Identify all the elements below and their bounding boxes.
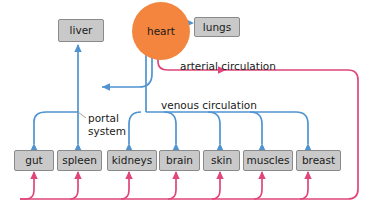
arrowhead-brain-artery [172, 171, 179, 179]
node-skin[interactable]: skin [203, 150, 240, 171]
arrowhead-into-liver [74, 44, 81, 52]
node-lungs-label: lungs [203, 22, 231, 33]
label-venous-circulation: venous circulation [161, 99, 257, 111]
edge-skin-to-venous [208, 112, 220, 144]
node-muscles-label: muscles [247, 155, 290, 166]
arrowhead-skin-artery [216, 171, 223, 179]
node-spleen-label: spleen [62, 155, 97, 166]
arrowhead-liver-to-heart [102, 83, 110, 90]
node-breast[interactable]: breast [296, 150, 341, 171]
node-muscles[interactable]: muscles [243, 150, 293, 171]
edge-gut-to-liver [34, 112, 78, 144]
node-liver[interactable]: liver [58, 19, 104, 42]
node-kidneys-label: kidneys [112, 155, 152, 166]
node-gut[interactable]: gut [14, 150, 54, 171]
node-gut-label: gut [25, 155, 42, 166]
node-spleen[interactable]: spleen [57, 150, 102, 171]
arrowhead-muscles-artery [258, 171, 265, 179]
node-brain-label: brain [166, 155, 193, 166]
arrowhead-breast-artery [304, 171, 311, 179]
node-skin-label: skin [211, 155, 232, 166]
node-lungs[interactable]: lungs [194, 17, 240, 37]
label-portal-system-line2: system [88, 125, 126, 137]
label-arterial-circulation: arterial circulation [180, 60, 276, 72]
edge-kidneys-to-venous [129, 112, 141, 144]
arrowhead-spleen-artery [74, 171, 81, 179]
circulatory-system-diagram: heart lungs liver gut spleen kidneys bra… [0, 0, 374, 210]
edge-brain-to-venous [164, 112, 176, 144]
node-liver-label: liver [70, 25, 93, 36]
arrowhead-kidneys-artery [125, 171, 132, 179]
edge-muscles-to-venous [250, 112, 262, 144]
node-breast-label: breast [302, 155, 335, 166]
node-heart-label: heart [147, 25, 175, 37]
edge-breast-to-venous [290, 112, 308, 144]
node-heart[interactable]: heart [132, 2, 190, 60]
label-portal-system-line1: portal [88, 112, 119, 124]
portal-system-leader-line [78, 112, 86, 118]
node-brain[interactable]: brain [159, 150, 200, 171]
arrowhead-gut-artery [30, 171, 37, 179]
node-kidneys[interactable]: kidneys [107, 150, 157, 171]
